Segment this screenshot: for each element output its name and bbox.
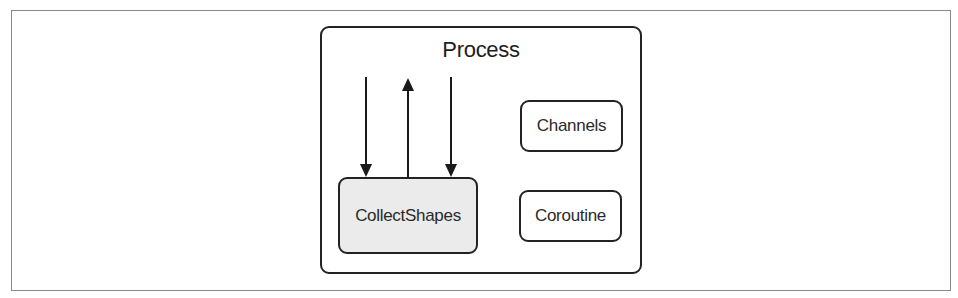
collect-shapes-label: CollectShapes [355, 206, 461, 226]
collect-shapes-node: CollectShapes [338, 177, 478, 254]
channels-node: Channels [520, 100, 623, 152]
channels-label: Channels [537, 116, 606, 136]
coroutine-label: Coroutine [535, 206, 606, 226]
process-title: Process [322, 37, 640, 63]
coroutine-node: Coroutine [519, 190, 622, 242]
